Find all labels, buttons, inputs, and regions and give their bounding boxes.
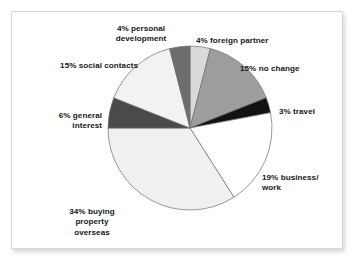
pie-label-no-change: 15% no change xyxy=(240,64,340,74)
pie-label-foreign-partner: 4% foreign partner xyxy=(196,36,306,46)
pie-label-travel: 3% travel xyxy=(279,107,349,117)
pie-chart-figure: 4% personal development 4% foreign partn… xyxy=(0,0,364,276)
pie-label-general-interest: 6% general interest xyxy=(22,111,102,132)
pie-label-business-work: 19% business/ work xyxy=(262,173,346,194)
pie-label-buying-property-overseas: 34% buying property overseas xyxy=(40,207,144,238)
pie-label-personal-development: 4% personal development xyxy=(92,24,190,45)
pie-label-social-contacts: 15% social contacts xyxy=(26,61,138,71)
